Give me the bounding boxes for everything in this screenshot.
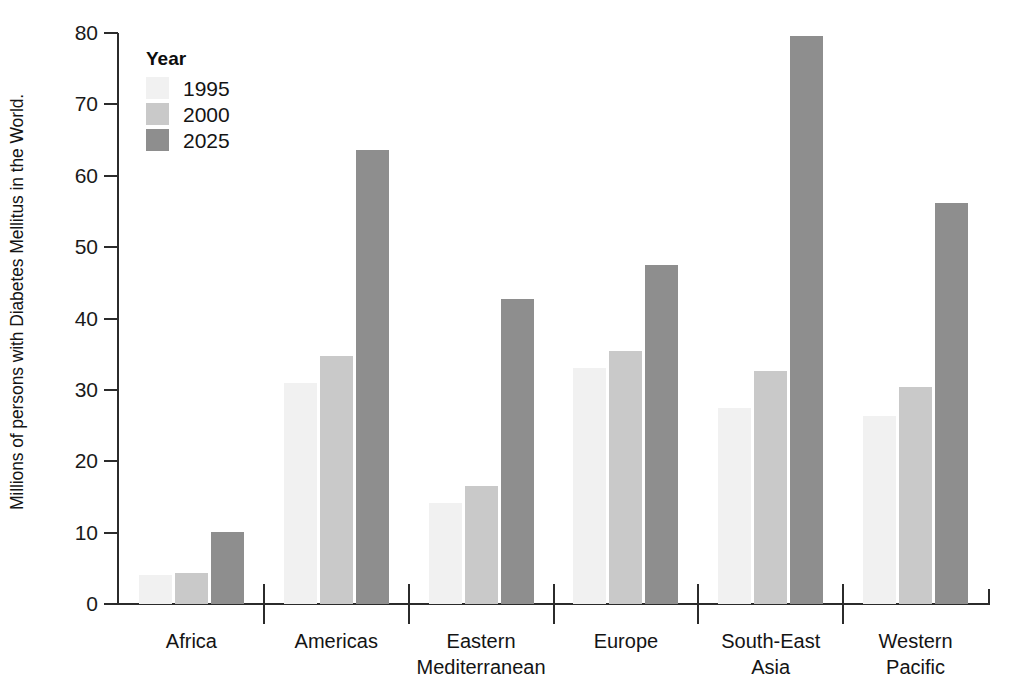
y-axis-tick-label: 40 [32,308,98,330]
y-axis-tick [104,318,118,320]
bar-group [264,33,409,604]
bar-group [554,33,699,604]
x-axis-label-line: Western [843,628,988,654]
y-axis-tick [104,246,118,248]
bar-chart: Millions of persons with Diabetes Mellit… [0,0,1013,694]
y-axis-tick-label: 50 [32,236,98,258]
bar [175,573,208,604]
y-axis-tick-label-text: 0 [86,592,98,616]
y-axis-tick-label: 0 [32,593,98,615]
y-axis-tick-label-text: 20 [75,449,98,473]
x-axis-label-line: Pacific [843,654,988,680]
y-axis-tick [104,460,118,462]
y-axis-tick [104,532,118,534]
x-axis-label-line: Asia [698,654,843,680]
x-axis-label: WesternPacific [843,628,988,680]
y-axis-tick [104,603,118,605]
y-axis-tick-label-text: 40 [75,307,98,331]
bar [284,383,317,604]
legend-title: Year [146,48,230,70]
x-axis-label-line: Eastern [409,628,554,654]
legend-swatch [146,103,169,125]
y-axis-tick-label-text: 50 [75,235,98,259]
bar-group [409,33,554,604]
x-axis-label-line: Africa [119,628,264,654]
bar [935,203,968,604]
x-axis-label: Europe [554,628,699,654]
x-axis-separator-tick [408,584,410,624]
legend-label: 2025 [183,130,230,151]
bar [465,486,498,604]
bar [754,371,787,604]
legend-swatch [146,129,169,151]
x-axis-separator-tick [697,584,699,624]
y-axis-tick-label: 20 [32,450,98,472]
y-axis-tick-label-text: 80 [75,21,98,45]
y-axis-tick [104,32,118,34]
legend-label: 1995 [183,78,230,99]
x-axis-label: Africa [119,628,264,654]
bar [356,150,389,604]
legend-entry: 2000 [146,103,230,125]
legend-label: 2000 [183,104,230,125]
x-axis-separator-tick [263,584,265,624]
x-axis-separator-tick [553,584,555,624]
y-axis-tick-label: 80 [32,22,98,44]
bar [573,368,606,604]
legend-swatch [146,77,169,99]
y-axis-tick-label: 70 [32,93,98,115]
bar [718,408,751,604]
bar [609,351,642,604]
bar [790,36,823,604]
bar [320,356,353,604]
y-axis-tick [104,103,118,105]
x-axis-label: South-EastAsia [698,628,843,680]
bar [899,387,932,604]
bar [139,575,172,604]
x-axis-separator-tick [842,584,844,624]
y-axis-tick-label: 30 [32,379,98,401]
y-axis-tick-label: 10 [32,522,98,544]
x-axis-label: Americas [264,628,409,654]
bar-group [698,33,843,604]
bar [211,532,244,604]
y-axis-title: Millions of persons with Diabetes Mellit… [0,0,34,604]
y-axis-tick-label-text: 60 [75,164,98,188]
legend-entry: 2025 [146,129,230,151]
y-axis-tick-label-text: 10 [75,521,98,545]
y-axis-tick-label: 60 [32,165,98,187]
y-axis-tick [104,175,118,177]
x-axis-label-line: South-East [698,628,843,654]
legend-entry: 1995 [146,77,230,99]
plot-area [119,33,988,604]
bar [501,299,534,604]
legend-entries: 199520002025 [146,77,230,151]
y-axis-tick-label-text: 70 [75,92,98,116]
x-axis-end-tick [117,589,119,605]
x-axis-end-tick [988,589,990,605]
x-axis-label-line: Americas [264,628,409,654]
x-axis-label-line: Europe [554,628,699,654]
bar [863,416,896,604]
x-axis-label: EasternMediterranean [409,628,554,680]
bar [645,265,678,604]
legend: Year 199520002025 [146,48,230,155]
y-axis-tick [104,389,118,391]
bar-group [843,33,988,604]
x-axis-label-line: Mediterranean [409,654,554,680]
y-axis-tick-label-text: 30 [75,378,98,402]
bar [429,503,462,604]
